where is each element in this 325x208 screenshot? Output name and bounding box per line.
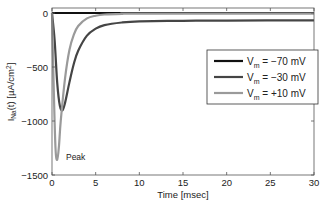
x-tick-label: 15 <box>178 177 189 188</box>
chart: 0510152025300−500−1000−1500 Peak Vm = −7… <box>0 0 325 208</box>
y-tick-label: 0 <box>43 8 48 19</box>
x-tick-label: 5 <box>93 177 98 188</box>
x-tick-label: 10 <box>134 177 145 188</box>
x-tick-label: 20 <box>221 177 232 188</box>
x-axis-label: Time [msec] <box>157 189 208 200</box>
y-tick-label: −1000 <box>21 116 48 127</box>
y-axis-label: INa(t) [µA/cm2] <box>5 63 17 122</box>
peak-annotation: Peak <box>66 152 86 162</box>
y-tick-label: −1500 <box>21 170 48 181</box>
x-tick-label: 25 <box>265 177 276 188</box>
y-tick-label: −500 <box>27 62 48 73</box>
x-tick-label: 0 <box>49 177 54 188</box>
legend: Vm = −70 mVVm = −30 mVVm = +10 mV <box>207 50 318 104</box>
x-tick-label: 30 <box>309 177 320 188</box>
